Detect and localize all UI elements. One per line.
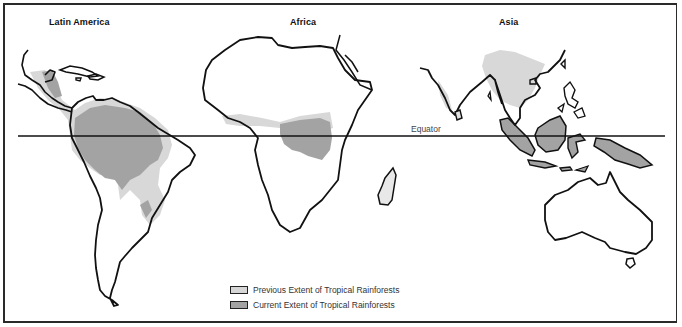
australia-outline <box>545 172 652 254</box>
tasmania-outline <box>626 258 635 268</box>
legend-item-current: Current Extent of Tropical Rainforests <box>230 298 399 312</box>
madagascar-outline <box>378 168 396 205</box>
legend-item-previous: Previous Extent of Tropical Rainforests <box>230 283 399 297</box>
legend-swatch-current <box>230 301 248 309</box>
world-map <box>0 0 682 327</box>
new-guinea-outline <box>594 138 652 168</box>
legend-label: Current Extent of Tropical Rainforests <box>253 300 395 310</box>
africa-map <box>203 35 396 232</box>
sri-lanka-outline <box>455 110 462 120</box>
region-label-latin-america: Latin America <box>49 17 110 27</box>
current-extent-area <box>280 118 332 160</box>
equator-label: Equator <box>411 124 441 134</box>
map-legend: Previous Extent of Tropical Rainforests … <box>230 283 399 313</box>
latin-america-map <box>18 50 195 306</box>
asia-map <box>420 50 652 268</box>
borneo-outline <box>535 116 566 152</box>
region-label-asia: Asia <box>499 17 518 27</box>
region-label-africa: Africa <box>290 17 316 27</box>
current-extent-area <box>500 118 535 156</box>
legend-swatch-previous <box>230 286 248 294</box>
legend-label: Previous Extent of Tropical Rainforests <box>253 285 399 295</box>
